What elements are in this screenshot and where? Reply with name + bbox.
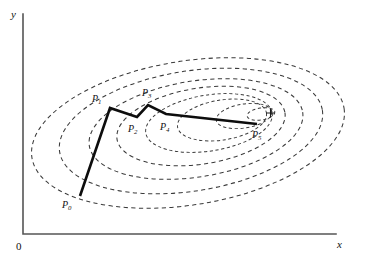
descent-path-group — [80, 105, 257, 196]
point-labels-group: P0 P1 P2 P3 P4 P5 — [61, 87, 262, 211]
point-label-p3: P3 — [141, 87, 152, 99]
contour-lines-group — [21, 37, 356, 229]
origin-label: 0 — [16, 240, 22, 252]
point-label-p4: P4 — [159, 121, 170, 133]
contour-descent-figure: y x 0 P0 P1 P2 P3 P4 — [0, 0, 367, 262]
contour-level-1 — [21, 37, 356, 229]
contour-level-3 — [82, 65, 310, 194]
x-axis-label: x — [336, 238, 342, 250]
contour-level-7 — [214, 100, 273, 132]
y-axis-label: y — [10, 8, 16, 20]
point-label-p5: P5 — [251, 129, 262, 141]
axes-group: y x 0 — [10, 8, 342, 252]
descent-polyline — [80, 105, 257, 196]
point-label-p1: P1 — [91, 93, 102, 105]
contour-level-4 — [111, 75, 291, 177]
optimum-plus-icon — [266, 109, 275, 118]
point-label-p0: P0 — [61, 199, 72, 211]
point-label-p2: P2 — [127, 123, 138, 135]
axis-lines — [23, 14, 336, 234]
